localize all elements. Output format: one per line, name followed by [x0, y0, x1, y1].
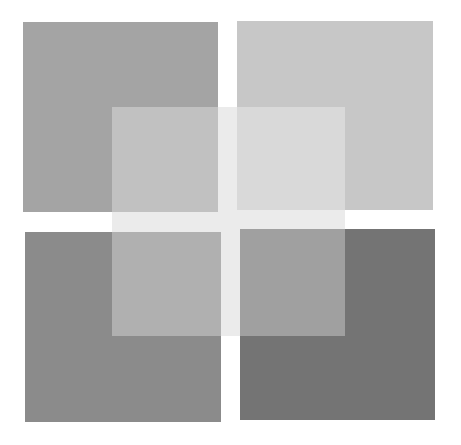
center-overlay-square — [112, 107, 345, 336]
figure-canvas — [0, 0, 461, 445]
